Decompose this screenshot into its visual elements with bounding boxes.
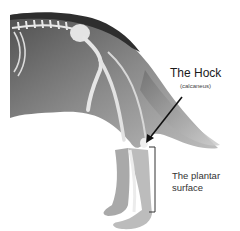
plantar-line-2: surface bbox=[172, 182, 220, 194]
plantar-line-1: The plantar bbox=[172, 170, 220, 182]
rear-leg-back bbox=[104, 148, 130, 216]
dog-hind-leg-illustration bbox=[0, 0, 240, 231]
calcaneus-label: (calcaneus) bbox=[180, 82, 211, 90]
hock-label: The Hock bbox=[170, 66, 221, 80]
plantar-surface-label: The plantar surface bbox=[172, 170, 220, 194]
